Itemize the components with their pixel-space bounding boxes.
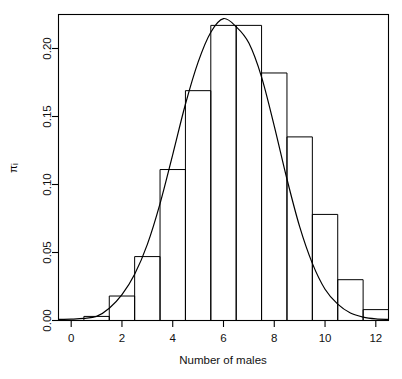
y-tick-label: 0.15	[41, 105, 53, 127]
x-tick-label: 10	[319, 332, 332, 344]
x-tick-label: 6	[220, 332, 226, 344]
chart-figure: 024681012 0.000.050.100.150.20 Number of…	[0, 0, 402, 379]
figure-background	[0, 0, 402, 379]
y-tick-label: 0.20	[41, 37, 53, 59]
x-tick-label: 2	[119, 332, 125, 344]
y-tick-label: 0.10	[41, 173, 53, 195]
y-tick-label: 0.05	[41, 241, 53, 263]
x-axis-title: Number of males	[179, 354, 267, 366]
x-tick-label: 8	[271, 332, 277, 344]
histogram-plot: 024681012 0.000.050.100.150.20 Number of…	[0, 0, 402, 379]
y-axis-title: πᵢ	[7, 163, 19, 173]
x-tick-label: 12	[369, 332, 382, 344]
x-tick-label: 4	[170, 332, 177, 344]
x-tick-label: 0	[68, 332, 74, 344]
y-tick-label: 0.00	[41, 309, 53, 331]
